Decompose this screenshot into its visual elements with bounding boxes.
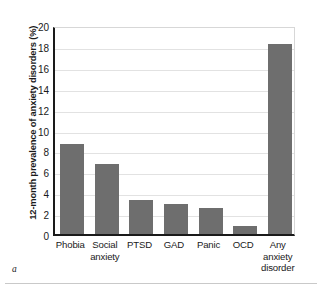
- x-tick-label: GAD: [157, 239, 192, 251]
- bar: [95, 164, 119, 234]
- y-tick-label-14: 14: [38, 84, 49, 95]
- bar-chart-figure: 12-month prevalence of anxiety disorders…: [0, 0, 322, 292]
- panel-letter-caption: a: [12, 264, 17, 274]
- y-tick-label-4: 4: [43, 189, 49, 200]
- x-tick-label: PTSD: [122, 239, 157, 251]
- bar: [233, 226, 257, 234]
- x-tick-label-line: GAD: [157, 239, 192, 251]
- x-tick-label-line: anxiety: [260, 251, 295, 263]
- bar-series: [55, 28, 294, 234]
- x-axis-tick-labels: PhobiaSocialanxietyPTSDGADPanicOCDAnyanx…: [53, 239, 295, 287]
- y-tick-label-20: 20: [38, 22, 49, 33]
- footer-divider: [5, 283, 317, 284]
- x-tick-label: Phobia: [53, 239, 88, 251]
- y-tick-label-18: 18: [38, 42, 49, 53]
- plot-area: [53, 27, 295, 236]
- bar: [199, 208, 223, 234]
- x-tick-label: Anyanxietydisorder: [260, 239, 295, 274]
- y-tick-label-6: 6: [43, 168, 49, 179]
- bar: [60, 144, 84, 234]
- y-tick-label-10: 10: [38, 126, 49, 137]
- y-tick-label-0: 0: [43, 231, 49, 242]
- x-tick-label-line: PTSD: [122, 239, 157, 251]
- x-tick-label: Panic: [191, 239, 226, 251]
- x-tick-label-line: Any: [260, 239, 295, 251]
- y-axis-tick-labels: 20181614121086420: [27, 27, 49, 236]
- x-tick-label-line: Social: [88, 239, 123, 251]
- x-tick-label-line: anxiety: [88, 251, 123, 263]
- bar: [164, 204, 188, 234]
- y-tick-label-2: 2: [43, 210, 49, 221]
- x-tick-label-line: Phobia: [53, 239, 88, 251]
- x-tick-label-line: Panic: [191, 239, 226, 251]
- y-tick-label-12: 12: [38, 105, 49, 116]
- x-tick-label: Socialanxiety: [88, 239, 123, 262]
- x-tick-label-line: OCD: [226, 239, 261, 251]
- bar: [129, 200, 153, 234]
- y-tick-label-8: 8: [43, 147, 49, 158]
- y-tick-label-16: 16: [38, 63, 49, 74]
- x-tick-label-line: disorder: [260, 262, 295, 274]
- x-tick-label: OCD: [226, 239, 261, 251]
- bar: [268, 44, 292, 234]
